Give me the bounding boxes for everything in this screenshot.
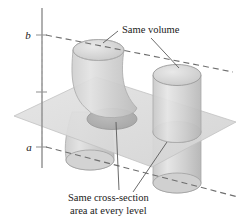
figure-container: b a Same volume Same cross-section area … bbox=[0, 0, 242, 223]
straight-cylinder-bottom-ellipse bbox=[153, 173, 201, 193]
vertical-axis bbox=[36, 8, 47, 168]
annotation-same-volume: Same volume bbox=[122, 24, 180, 35]
straight-cylinder-top-ellipse bbox=[153, 65, 201, 86]
annotation-cross-section-line1: Same cross-section bbox=[68, 192, 150, 203]
axis-label-a: a bbox=[26, 141, 32, 153]
leader-same-volume-right bbox=[151, 38, 179, 68]
straight-cylinder-upper bbox=[153, 65, 201, 143]
annotation-cross-section-line2: area at every level bbox=[70, 205, 147, 216]
cavalieri-diagram: b a Same volume Same cross-section area … bbox=[0, 0, 242, 223]
axis-label-b: b bbox=[25, 29, 31, 41]
sheared-cylinder-bottom-ellipse bbox=[66, 150, 114, 170]
